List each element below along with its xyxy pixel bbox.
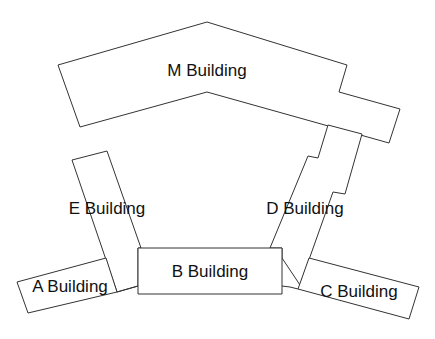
m-building-label: M Building — [167, 61, 246, 80]
b-building-label: B Building — [172, 262, 249, 281]
d-building-label: D Building — [266, 199, 344, 218]
a-building-label: A Building — [32, 277, 108, 296]
campus-map: M Building D Building E Building B Build… — [0, 0, 435, 339]
e-building-label: E Building — [69, 199, 146, 218]
m-building-shape[interactable] — [58, 22, 400, 143]
connector-b-c — [282, 286, 298, 289]
c-building-label: C Building — [320, 282, 398, 301]
